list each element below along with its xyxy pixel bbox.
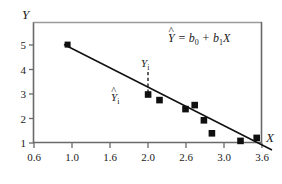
- x-tick-label: 3.0: [217, 152, 231, 163]
- data-point: [145, 91, 152, 98]
- x-tick-label: 0.6: [27, 152, 41, 163]
- regression-equation-annotation: ^Y = b0 + b1X: [168, 32, 230, 47]
- observed-value-subscript: i: [147, 63, 149, 72]
- y-tick-label: 3: [16, 89, 26, 100]
- x-tick-label: 2.0: [141, 152, 155, 163]
- equation-equals: =: [178, 31, 186, 45]
- x-tick-label: 2.6: [179, 152, 193, 163]
- x-axis-ticks: [34, 143, 262, 148]
- regression-line: [64, 45, 272, 151]
- data-point: [191, 102, 198, 109]
- x-axis-title: X: [266, 131, 274, 144]
- data-point: [237, 138, 244, 145]
- y-tick-label: 4: [16, 64, 26, 75]
- data-point: [253, 135, 260, 142]
- y-axis-title: Y: [22, 8, 29, 21]
- y-tick-label: 1: [16, 138, 26, 149]
- equation-intercept-subscript: 0: [195, 38, 199, 47]
- data-point: [201, 117, 208, 124]
- hat-accent-icon: ^: [111, 86, 116, 96]
- predicted-value-subscript: i: [117, 97, 119, 106]
- x-tick-label: 1.0: [65, 152, 79, 163]
- data-point: [209, 130, 216, 137]
- y-tick-label: 5: [16, 40, 26, 51]
- data-point: [182, 106, 189, 113]
- regression-scatter-figure: Y X 0.6 1.0 1.6 2.0 2.6 3.0 3.6 5 4 3 2 …: [0, 0, 282, 184]
- observed-value-label: Yi: [141, 58, 149, 72]
- x-tick-label: 3.6: [255, 152, 269, 163]
- predicted-value-label: ^Yi: [111, 92, 119, 106]
- equation-lhs: ^Y: [168, 32, 175, 44]
- equation-plus: +: [202, 31, 210, 45]
- hat-accent-icon: ^: [168, 25, 173, 36]
- y-tick-label: 2: [16, 113, 26, 124]
- data-point: [65, 42, 71, 48]
- data-point: [156, 97, 163, 104]
- x-tick-label: 1.6: [103, 152, 117, 163]
- equation-variable: X: [223, 31, 230, 45]
